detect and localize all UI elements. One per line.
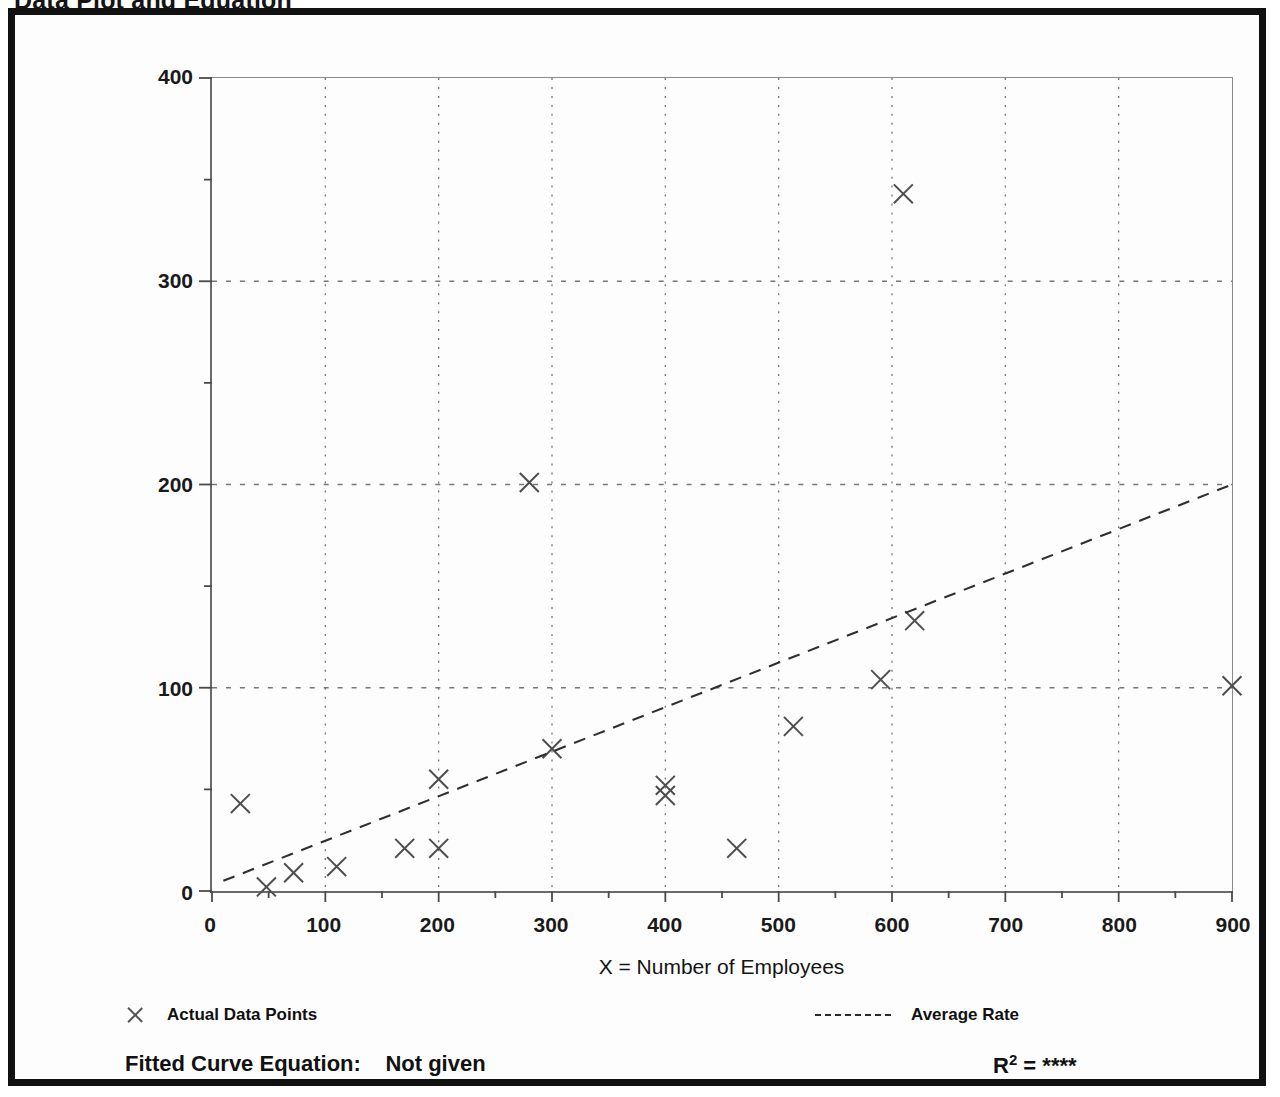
data-series-layer xyxy=(212,78,1232,891)
data-point-marker xyxy=(894,184,913,203)
y-axis-tick-label: 0 xyxy=(135,881,193,905)
fitted-curve-equation: Fitted Curve Equation: Not given xyxy=(125,1051,486,1077)
y-axis-tick-label: 300 xyxy=(135,269,193,293)
r-squared-value: R2 = **** xyxy=(993,1051,1077,1079)
r2-equals: = xyxy=(1023,1053,1036,1078)
data-point-marker xyxy=(871,670,890,689)
data-point-marker xyxy=(257,877,276,896)
data-point-marker xyxy=(1223,676,1242,695)
legend-item-actual-data-points: Actual Data Points xyxy=(125,1005,317,1025)
y-axis-tick-label: 200 xyxy=(135,473,193,497)
x-axis-tick-label: 200 xyxy=(420,913,455,937)
x-axis-tick-label: 300 xyxy=(533,913,568,937)
data-point-marker xyxy=(327,857,346,876)
legend-label-average-rate: Average Rate xyxy=(911,1005,1019,1025)
data-point-marker xyxy=(429,770,448,789)
data-point-marker xyxy=(520,473,539,492)
x-axis-tick-label: 600 xyxy=(874,913,909,937)
x-axis-tick-label: 400 xyxy=(647,913,682,937)
x-axis-tick-labels: 0100200300400500600700800900 xyxy=(210,913,1233,943)
data-point-marker xyxy=(727,839,746,858)
y-axis-title: T = Average Vehicle Trip Ends xyxy=(21,0,83,201)
y-axis-tick-label: 100 xyxy=(135,677,193,701)
data-point-marker xyxy=(429,839,448,858)
x-axis-tick-label: 800 xyxy=(1102,913,1137,937)
data-point-marker xyxy=(905,611,924,630)
data-point-marker xyxy=(656,776,675,795)
legend-label-actual-data-points: Actual Data Points xyxy=(167,1005,317,1025)
r2-value: **** xyxy=(1042,1053,1076,1078)
x-axis-tick-label: 700 xyxy=(988,913,1023,937)
x-axis-tick-label: 0 xyxy=(204,913,216,937)
r2-exponent: 2 xyxy=(1009,1051,1017,1068)
equation-value: Not given xyxy=(385,1051,485,1076)
y-axis-tick-labels: 0100200300400 xyxy=(135,77,193,893)
equation-label: Fitted Curve Equation: xyxy=(125,1051,361,1076)
y-axis-tick-label: 400 xyxy=(135,65,193,89)
x-axis-tick-label: 500 xyxy=(761,913,796,937)
x-marker-icon xyxy=(125,1005,145,1025)
legend-item-average-rate: Average Rate xyxy=(815,1005,1019,1025)
plot-area xyxy=(210,77,1233,893)
data-point-marker xyxy=(395,839,414,858)
data-point-marker xyxy=(284,863,303,882)
data-point-marker xyxy=(784,717,803,736)
x-axis-tick-label: 900 xyxy=(1215,913,1250,937)
x-axis-tick-label: 100 xyxy=(306,913,341,937)
r2-label: R xyxy=(993,1053,1009,1078)
chart-frame: T = Average Vehicle Trip Ends 0100200300… xyxy=(8,8,1266,1086)
dashed-line-icon xyxy=(815,1014,891,1016)
data-point-marker xyxy=(656,786,675,805)
x-axis-title: X = Number of Employees xyxy=(210,955,1233,979)
data-point-marker xyxy=(231,794,250,813)
